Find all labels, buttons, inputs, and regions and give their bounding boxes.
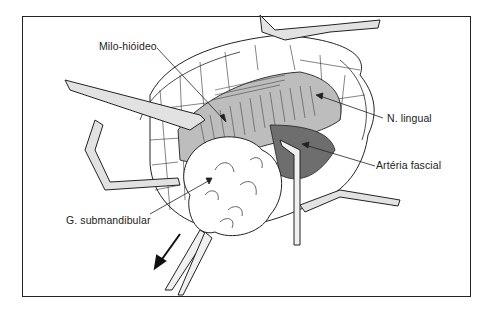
label-mylohyoid: Milo-hióideo xyxy=(99,40,157,52)
label-submandibular-gland: G. submandibular xyxy=(66,214,150,226)
traction-arrow-icon xyxy=(155,234,180,268)
label-lingual-nerve: N. lingual xyxy=(387,112,432,124)
surgical-illustration xyxy=(0,0,482,310)
label-facial-artery: Artéria fascial xyxy=(376,159,441,171)
